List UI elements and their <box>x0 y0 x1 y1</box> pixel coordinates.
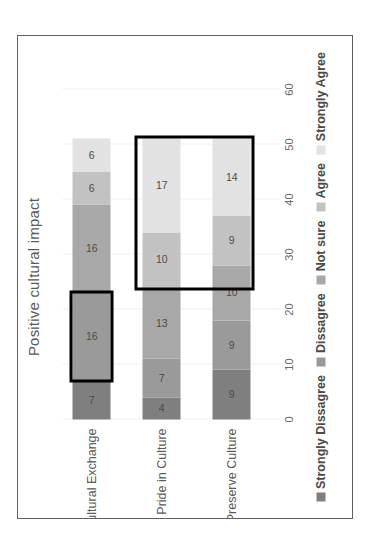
bar-value-label: 10 <box>226 288 238 299</box>
bar-segment-strongly-dissagree[interactable]: 4 <box>143 398 181 420</box>
bar-segment-strongly-agree[interactable]: 14 <box>213 139 251 216</box>
bar-value-label: 16 <box>86 332 98 343</box>
axis-tick-60: 60 <box>283 83 295 95</box>
bar-segment-not-sure[interactable]: 10 <box>213 266 251 321</box>
axis-tick-30: 30 <box>283 248 295 260</box>
legend-label: Strongly Agree <box>314 52 328 141</box>
bar-value-label: 17 <box>156 181 168 192</box>
bar-segment-strongly-agree[interactable]: 6 <box>73 139 111 172</box>
bar-value-label: 9 <box>229 236 235 247</box>
bar-segment-strongly-dissagree[interactable]: 7 <box>73 381 111 420</box>
chart-title: Positive cultural impact <box>25 37 42 518</box>
bar-value-label: 10 <box>156 255 168 266</box>
bar-value-label: 14 <box>226 172 238 183</box>
legend: Strongly Dissagree Dissagree Not sure Ag… <box>314 37 328 518</box>
legend-item-agree[interactable]: Agree <box>314 163 328 211</box>
legend-label: Not sure <box>314 221 328 272</box>
bar-segment-strongly-dissagree[interactable]: 9 <box>213 370 251 420</box>
bar-row: Pride in Culture 4 7 13 10 17 <box>143 90 181 420</box>
legend-label: Strongly Dissagree <box>314 375 328 489</box>
bar-segment-dissagree[interactable]: 9 <box>213 321 251 371</box>
legend-item-strongly-dissagree[interactable]: Strongly Dissagree <box>314 375 328 502</box>
axis-tick-50: 50 <box>283 138 295 150</box>
bar-segment-strongly-agree[interactable]: 17 <box>143 139 181 233</box>
stacked-bar-cultural-exchange: 7 16 16 6 6 <box>73 139 111 420</box>
category-label-preserve-culture: Preserve Culture <box>225 429 239 520</box>
bar-segment-agree[interactable]: 9 <box>213 216 251 266</box>
legend-swatch-icon <box>316 203 325 212</box>
bar-value-label: 13 <box>156 318 168 329</box>
legend-item-not-sure[interactable]: Not sure <box>314 221 328 285</box>
category-label-pride-in-culture: Pride in Culture <box>155 429 169 515</box>
bar-segment-agree[interactable]: 6 <box>73 172 111 205</box>
axis-tick-20: 20 <box>283 303 295 315</box>
legend-swatch-icon <box>316 275 325 284</box>
bar-segment-not-sure[interactable]: 13 <box>143 288 181 360</box>
legend-label: Agree <box>314 163 328 198</box>
axis-tick-10: 10 <box>283 358 295 370</box>
stacked-bar-pride-in-culture: 4 7 13 10 17 <box>143 139 181 420</box>
chart-frame: Positive cultural impact Cultural Exchan… <box>17 35 353 519</box>
bar-value-label: 7 <box>159 373 165 384</box>
rotated-chart-canvas: Positive cultural impact Cultural Exchan… <box>19 37 352 518</box>
bar-row: Preserve Culture 9 9 10 9 14 <box>213 90 251 420</box>
legend-label: Dissagree <box>314 293 328 353</box>
stacked-bar-preserve-culture: 9 9 10 9 14 <box>213 139 251 420</box>
value-axis: 0 10 20 30 40 50 60 <box>281 90 303 420</box>
legend-swatch-icon <box>316 493 325 502</box>
bar-value-label: 9 <box>229 390 235 401</box>
axis-tick-40: 40 <box>283 193 295 205</box>
bar-value-label: 7 <box>89 395 95 406</box>
category-label-cultural-exchange: Cultural Exchange <box>85 429 99 520</box>
legend-swatch-icon <box>316 145 325 154</box>
plot-area: Cultural Exchange 7 16 16 6 6 Pride in C… <box>63 90 281 420</box>
bar-value-label: 6 <box>89 183 95 194</box>
axis-tick-0: 0 <box>283 416 295 422</box>
bar-segment-dissagree[interactable]: 7 <box>143 359 181 398</box>
bar-segment-not-sure[interactable]: 16 <box>73 205 111 293</box>
legend-swatch-icon <box>316 357 325 366</box>
bar-segment-agree[interactable]: 10 <box>143 233 181 288</box>
bar-value-label: 9 <box>229 340 235 351</box>
legend-item-strongly-agree[interactable]: Strongly Agree <box>314 52 328 154</box>
bar-value-label: 16 <box>86 244 98 255</box>
legend-item-dissagree[interactable]: Dissagree <box>314 293 328 366</box>
bar-value-label: 4 <box>159 403 165 414</box>
bar-value-label: 6 <box>89 150 95 161</box>
bar-segment-dissagree[interactable]: 16 <box>73 293 111 381</box>
bar-row: Cultural Exchange 7 16 16 6 6 <box>73 90 111 420</box>
